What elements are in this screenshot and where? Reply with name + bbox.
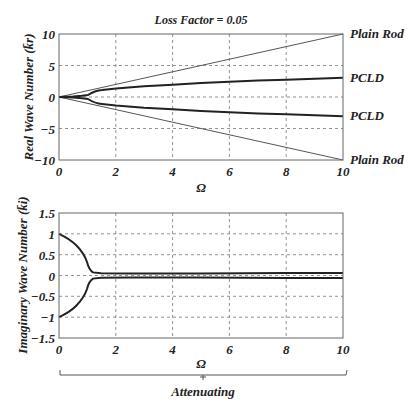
imag-lower-line	[59, 278, 343, 318]
top-x-ticks: 0 2 4 6 8 10	[56, 164, 350, 179]
svg-text:2: 2	[112, 342, 120, 357]
svg-text:−1: −1	[41, 310, 55, 325]
label-plain-rod-top: Plain Rod	[350, 26, 404, 41]
bottom-y-ticks: 1.5 1 0.5 0 −0.5 −1 −1.5	[31, 206, 56, 346]
svg-text:0: 0	[56, 164, 63, 179]
svg-text:5: 5	[49, 59, 56, 74]
label-pcld-top: PCLD	[350, 70, 385, 85]
svg-text:8: 8	[283, 342, 290, 357]
imag-upper-line	[59, 234, 343, 274]
bottom-y-axis-label: Imaginary Wave Number (k̄i)	[15, 196, 30, 354]
top-y-axis-label: Real Wave Number (k̄r)	[21, 34, 36, 162]
top-grid	[59, 34, 343, 160]
svg-text:0.5: 0.5	[39, 248, 56, 263]
bottom-x-axis-label: Ω	[196, 356, 206, 371]
svg-text:6: 6	[226, 342, 233, 357]
svg-text:−5: −5	[41, 122, 56, 137]
top-y-ticks: 10 5 0 −5 −10	[34, 27, 55, 168]
svg-text:8: 8	[283, 164, 290, 179]
svg-text:−1.5: −1.5	[31, 331, 56, 346]
top-series-labels: Plain Rod PCLD PCLD Plain Rod	[350, 26, 404, 167]
svg-text:6: 6	[226, 164, 233, 179]
svg-text:4: 4	[168, 164, 176, 179]
label-plain-rod-bottom: Plain Rod	[350, 152, 404, 167]
bottom-grid	[59, 213, 343, 338]
svg-text:1: 1	[49, 227, 56, 242]
svg-text:0: 0	[49, 90, 56, 105]
label-pcld-bottom: PCLD	[350, 108, 385, 123]
svg-text:−0.5: −0.5	[31, 289, 56, 304]
svg-text:10: 10	[337, 342, 351, 357]
svg-text:2: 2	[112, 164, 120, 179]
svg-text:−10: −10	[34, 153, 55, 168]
svg-text:10: 10	[337, 164, 351, 179]
bottom-x-ticks: 0 2 4 6 8 10	[56, 342, 350, 357]
svg-text:0: 0	[49, 269, 56, 284]
svg-text:10: 10	[42, 27, 56, 42]
svg-text:0: 0	[56, 342, 63, 357]
attenuating-bracket	[60, 370, 347, 380]
attenuating-label: Attenuating	[170, 384, 235, 399]
svg-text:4: 4	[168, 342, 176, 357]
top-x-axis-label: Ω	[196, 180, 206, 195]
imaginary-wavenumber-plot: 1.5 1 0.5 0 −0.5 −1 −1.5 0 2 4 6 8 10 Ω …	[15, 196, 350, 399]
figure: Loss Factor = 0.05 10 5 0 −5 −10	[0, 0, 416, 414]
real-wavenumber-plot: Loss Factor = 0.05 10 5 0 −5 −10	[21, 13, 404, 195]
svg-text:1.5: 1.5	[39, 206, 56, 221]
top-plot-title: Loss Factor = 0.05	[154, 13, 248, 27]
